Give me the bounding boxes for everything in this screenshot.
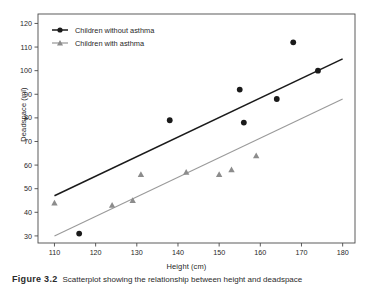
data-point-triangle	[216, 171, 222, 177]
x-tick-label: 160	[254, 248, 266, 257]
x-tick-label: 180	[337, 248, 349, 257]
x-tick-label: 170	[295, 248, 307, 257]
data-point-triangle	[51, 200, 57, 206]
scatter-plot-svg: 1101201301401501601701803040506070809010…	[0, 0, 373, 262]
x-tick-label: 120	[90, 248, 102, 257]
legend-label-0: Children without asthma	[75, 26, 155, 35]
data-point-circle	[290, 39, 296, 45]
legend-marker-circle	[57, 27, 62, 32]
data-point-circle	[315, 68, 321, 74]
y-axis-title: Deadspace (ml)	[19, 60, 28, 170]
data-point-circle	[241, 120, 247, 126]
y-tick-label: 120	[20, 19, 32, 28]
data-point-circle	[167, 117, 173, 123]
figure-caption: Figure 3.2Scatterplot showing the relati…	[12, 274, 364, 287]
x-tick-label: 150	[213, 248, 225, 257]
chart-area: 1101201301401501601701803040506070809010…	[0, 0, 373, 262]
data-point-triangle	[253, 152, 259, 158]
legend-label-1: Children with asthma	[75, 39, 145, 48]
y-tick-label: 50	[24, 184, 32, 193]
figure-container: 1101201301401501601701803040506070809010…	[0, 0, 373, 287]
data-point-circle	[237, 87, 243, 93]
y-tick-label: 110	[21, 43, 32, 52]
x-tick-label: 130	[131, 248, 143, 257]
x-tick-label: 140	[172, 248, 184, 257]
fit-line-series-0	[54, 59, 342, 196]
x-axis-title: Height (cm)	[0, 262, 373, 271]
y-tick-label: 40	[24, 208, 32, 217]
x-tick-label: 110	[49, 248, 60, 257]
caption-text: Scatterplot showing the relationship bet…	[63, 275, 303, 284]
caption-label: Figure 3.2	[12, 274, 58, 284]
data-point-triangle	[109, 202, 115, 208]
data-point-triangle	[138, 171, 144, 177]
fit-line-series-1	[54, 99, 342, 236]
data-point-triangle	[228, 167, 234, 173]
data-point-circle	[76, 231, 82, 237]
data-point-circle	[274, 96, 280, 102]
y-tick-label: 30	[24, 232, 32, 241]
